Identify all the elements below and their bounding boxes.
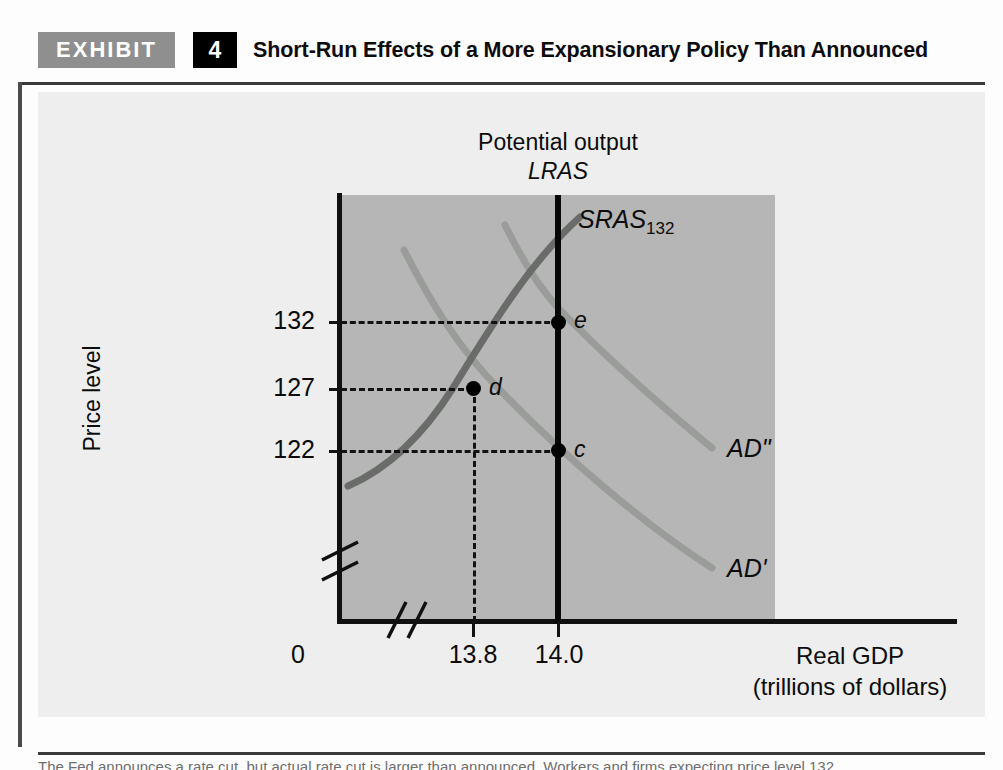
y-axis-line bbox=[337, 193, 342, 624]
guide-dashed-132 bbox=[341, 321, 559, 324]
x-tick-label-14-0: 14.0 bbox=[523, 640, 595, 669]
data-point-label-d: d bbox=[489, 374, 502, 401]
y-axis-title: Price level bbox=[79, 289, 106, 509]
x-tick-13-8 bbox=[472, 622, 475, 637]
x-tick-label-0: 0 bbox=[278, 640, 318, 669]
ad-prime-label: AD' bbox=[727, 554, 767, 583]
guide-dashed-127 bbox=[341, 388, 473, 391]
exhibit-caption: The Fed announces a rate cut, but actual… bbox=[38, 758, 985, 770]
y-tick-127 bbox=[329, 388, 344, 391]
data-point-d bbox=[466, 381, 481, 396]
sras-132-label: SRAS132 bbox=[578, 205, 674, 239]
x-tick-label-13-8: 13.8 bbox=[437, 640, 509, 669]
exhibit-page: EXHIBIT 4 Short-Run Effects of a More Ex… bbox=[0, 0, 1003, 770]
y-tick-label-122: 122 bbox=[245, 435, 315, 464]
x-axis-title-sub: (trillions of dollars) bbox=[700, 671, 1000, 702]
data-point-label-e: e bbox=[574, 307, 587, 334]
guide-dashed-122 bbox=[341, 450, 559, 453]
data-point-e bbox=[551, 315, 566, 330]
potential-output-label: Potential output bbox=[398, 128, 718, 157]
potential-output-annotation: Potential output LRAS bbox=[398, 128, 718, 186]
data-point-c bbox=[551, 443, 566, 458]
x-axis-line bbox=[337, 619, 957, 624]
x-tick-14-0 bbox=[557, 622, 560, 637]
sras-label-subscript: 132 bbox=[646, 219, 674, 238]
y-tick-122 bbox=[329, 450, 344, 453]
y-tick-label-127: 127 bbox=[245, 373, 315, 402]
x-axis-title-main: Real GDP bbox=[700, 640, 1000, 671]
x-axis-title: Real GDP (trillions of dollars) bbox=[700, 640, 1000, 702]
lras-vertical-line bbox=[555, 195, 561, 624]
y-tick-label-132: 132 bbox=[245, 306, 315, 335]
guide-dashed-13-8 bbox=[473, 388, 476, 622]
ad-double-prime-label: AD" bbox=[727, 434, 771, 463]
sras-label-text: SRAS bbox=[578, 205, 646, 233]
chart-figure: Potential output LRAS bbox=[0, 0, 1003, 770]
data-point-label-c: c bbox=[574, 436, 586, 463]
lras-label: LRAS bbox=[528, 158, 588, 184]
y-tick-132 bbox=[329, 321, 344, 324]
footer-divider bbox=[38, 752, 985, 755]
